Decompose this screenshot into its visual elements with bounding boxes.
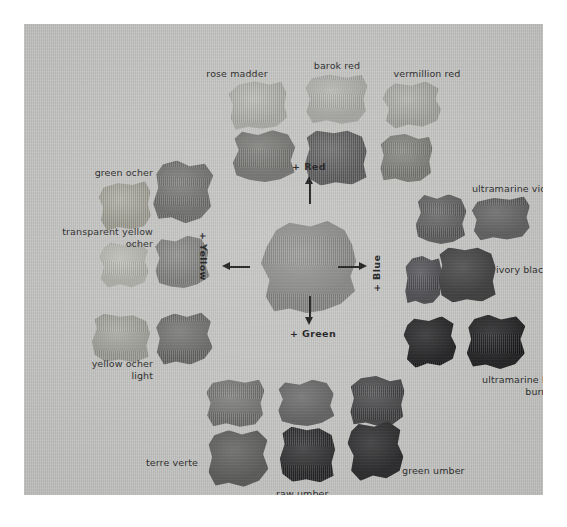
swatch-label-green-ocher: green ocher	[46, 167, 153, 179]
terre-verte-light-swatch	[205, 378, 265, 428]
green-ocher-swatch	[98, 181, 152, 231]
swatch-texture	[404, 255, 442, 304]
arrow-head-icon	[305, 317, 313, 325]
arrow-shaft	[309, 296, 311, 317]
green-umber-upper-swatch	[349, 375, 406, 428]
arrow-shaft	[309, 183, 311, 204]
swatch-label-ultramarine-blue-plus-burnt-umber: ultramarine blue plus burnt umber	[456, 374, 543, 397]
swatch-label-ultramarine-violet: ultramarine violet	[472, 183, 543, 195]
ivory-black-left-swatch	[404, 255, 442, 304]
swatch-texture	[349, 375, 406, 428]
arrow-shaft	[229, 266, 250, 268]
barok-red-swatch	[304, 73, 368, 125]
swatch-label-transparent-yellow-ocher: transparent yellow ocher	[41, 226, 153, 249]
swatch-label-vermillion-red: vermillion red	[379, 68, 475, 80]
yellow-ocher-light-swatch	[92, 313, 151, 362]
swatch-texture	[92, 313, 151, 362]
swatch-texture	[228, 80, 288, 131]
axis-arrow-green-down	[305, 296, 314, 325]
axis-label-yellow: + Yellow	[198, 232, 209, 281]
vermillion-dark-swatch	[379, 133, 433, 184]
swatch-label-barok-red: barok red	[296, 60, 378, 72]
green-mid-swatch	[277, 379, 335, 427]
arrow-shaft	[338, 266, 359, 268]
black-left-swatch	[403, 316, 458, 369]
swatch-label-raw-umber: raw umber	[276, 488, 352, 495]
ivory-black-swatch	[437, 246, 497, 303]
swatch-texture	[277, 379, 335, 427]
swatch-texture	[98, 181, 152, 231]
axis-arrow-yellow-left	[222, 262, 251, 271]
figure-root: rose madderbarok redvermillion redgreen …	[0, 0, 567, 527]
swatch-texture	[233, 129, 296, 182]
axis-arrow-blue-right	[338, 262, 367, 271]
yellow-ocher-light-dark-swatch	[154, 311, 213, 367]
swatch-label-ivory-black: ivory black	[496, 264, 543, 276]
swatch-texture	[304, 73, 368, 125]
swatch-texture	[347, 421, 405, 482]
ultramarine-burnt-umber-swatch	[467, 314, 526, 369]
blue-left-swatch	[415, 193, 468, 246]
swatch-texture	[152, 159, 214, 225]
swatch-texture	[280, 427, 336, 483]
swatch-texture	[154, 311, 213, 367]
swatch-texture	[472, 196, 531, 240]
rose-madder-dark-swatch	[233, 129, 296, 182]
swatch-texture	[382, 81, 442, 129]
swatch-texture	[415, 193, 468, 246]
swatch-texture	[379, 133, 433, 184]
axis-label-blue: + Blue	[371, 255, 382, 292]
swatch-texture	[403, 316, 458, 369]
pigment-chart-plate: rose madderbarok redvermillion redgreen …	[24, 24, 543, 495]
swatch-texture	[437, 246, 497, 303]
swatch-texture	[467, 314, 526, 369]
swatch-label-rose-madder: rose madder	[191, 68, 283, 80]
vermillion-red-swatch	[382, 81, 442, 129]
arrow-head-icon	[359, 262, 367, 270]
green-ocher-dark-swatch	[152, 159, 214, 225]
ultramarine-violet-swatch	[472, 196, 531, 240]
axis-label-red: + Red	[274, 161, 344, 172]
axis-arrow-red-up	[305, 176, 314, 205]
swatch-label-yellow-ocher-light: yellow ocher light	[49, 358, 153, 381]
raw-umber-swatch	[280, 427, 336, 483]
swatch-texture	[205, 378, 265, 428]
swatch-label-terre-verte: terre verte	[146, 457, 224, 469]
swatch-label-green-umber: green umber	[402, 465, 488, 477]
rose-madder-swatch	[228, 80, 288, 131]
axis-label-green: + Green	[274, 328, 352, 339]
green-umber-swatch	[347, 421, 405, 482]
